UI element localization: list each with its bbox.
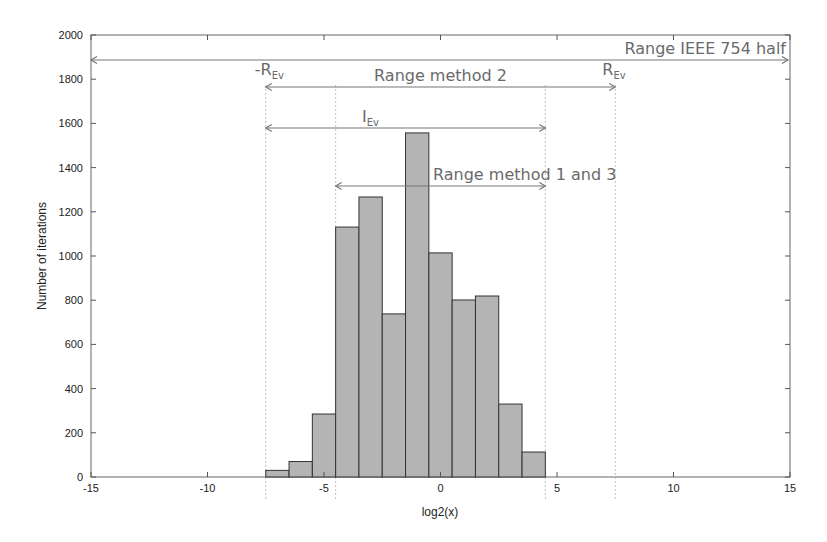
histogram-bar [382,314,405,477]
x-tick-label: 10 [667,482,679,494]
histogram-bar [266,470,289,477]
y-tick-label: 800 [65,294,83,306]
annotation-range-method-1-3: Range method 1 and 3 [433,165,616,184]
y-tick-label: 0 [77,471,83,483]
y-tick-label: 2000 [59,29,83,41]
histogram-bar [522,452,545,477]
histogram-bar [452,300,475,477]
y-tick-label: 1200 [59,206,83,218]
x-tick-label: 0 [437,482,443,494]
y-tick-label: 1000 [59,250,83,262]
x-tick-label: -10 [200,482,216,494]
histogram-bar [336,227,359,477]
x-tick-label: -5 [319,482,329,494]
histogram-bar [406,133,429,477]
annotation-range-method-2: Range method 2 [374,66,507,85]
histogram-bar [289,462,312,477]
histogram-bar [359,197,382,477]
histogram-bar [429,253,452,477]
x-tick-label: -15 [83,482,99,494]
y-tick-label: 1400 [59,162,83,174]
x-tick-label: 5 [554,482,560,494]
histogram-bar [475,296,498,477]
y-tick-label: 400 [65,383,83,395]
x-axis-label: log2(x) [422,505,459,519]
y-tick-label: 200 [65,427,83,439]
histogram-bar [312,414,335,477]
y-tick-label: 600 [65,338,83,350]
x-tick-label: 15 [784,482,796,494]
histogram-chart: -15-10-505101502004006008001000120014001… [0,0,827,542]
annotation-ieee-half: Range IEEE 754 half [624,39,786,58]
y-tick-label: 1800 [59,73,83,85]
y-tick-label: 1600 [59,117,83,129]
histogram-bar [499,404,522,477]
y-axis-label: Number of iterations [35,202,49,310]
